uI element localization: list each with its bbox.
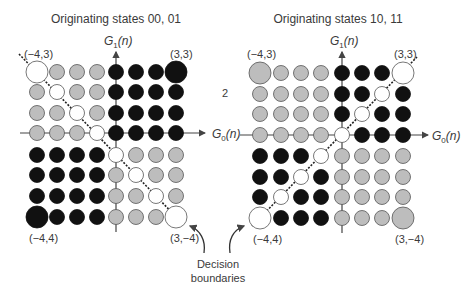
constellation-point-black [109, 65, 124, 80]
constellation-point-black [90, 210, 105, 225]
constellation-point-black [314, 190, 329, 205]
constellation-point-gray [355, 190, 370, 205]
constellation-point-black [396, 107, 411, 122]
constellation-point-black [70, 148, 85, 163]
constellation-point-gray [375, 170, 390, 185]
constellation-point-gray [149, 168, 164, 183]
constellation-point-black [355, 66, 370, 81]
constellation-point-black [129, 65, 144, 80]
constellation-point-gray [70, 126, 85, 141]
constellation-point-gray [109, 168, 124, 183]
constellation-point-white [294, 170, 309, 185]
constellation-point-black [165, 61, 187, 83]
constellation-point-white [335, 128, 350, 143]
constellation-point-gray [70, 65, 85, 80]
constellation-point-white [274, 190, 289, 205]
constellation-point-gray [314, 107, 329, 122]
constellation-point-gray [30, 85, 45, 100]
annotation-line2: boundaries [191, 272, 246, 284]
constellation-point-gray [396, 149, 411, 164]
constellation-point-black [169, 106, 184, 121]
constellation-point-black [90, 148, 105, 163]
constellation-point-gray [169, 148, 184, 163]
constellation-point-gray [274, 107, 289, 122]
panel-left-x-axis-label: G0(n) [212, 127, 240, 143]
constellation-point-white [109, 148, 124, 163]
constellation-point-black [109, 106, 124, 121]
constellation-point-black [294, 190, 309, 205]
annotation-arrow-right [230, 226, 244, 253]
constellation-point-gray [314, 128, 329, 143]
constellation-point-gray [314, 66, 329, 81]
constellation-point-white [129, 168, 144, 183]
constellation-point-black [294, 211, 309, 226]
constellation-point-black [169, 85, 184, 100]
constellation-point-black [314, 211, 329, 226]
constellation-point-gray [335, 190, 350, 205]
constellation-point-black [26, 206, 48, 228]
panel-right-label-top-right: (3,3) [394, 48, 417, 60]
constellation-point-gray [253, 87, 268, 102]
constellation-point-black [253, 149, 268, 164]
constellation-point-black [30, 168, 45, 183]
constellation-point-black [274, 149, 289, 164]
constellation-point-gray [375, 149, 390, 164]
panel-left-label-top-left: (−4,3) [24, 48, 53, 60]
constellation-point-white [26, 61, 48, 83]
constellation-point-black [375, 107, 390, 122]
panel-right-title: Originating states 10, 11 [273, 12, 403, 26]
constellation-point-gray [149, 210, 164, 225]
constellation-point-gray [335, 211, 350, 226]
panel-left-label-top-right: (3,3) [170, 48, 193, 60]
constellation-point-white [375, 87, 390, 102]
constellation-point-black [253, 170, 268, 185]
constellation-point-gray [129, 210, 144, 225]
constellation-point-black [50, 148, 65, 163]
constellation-point-black [396, 128, 411, 143]
constellation-point-white [249, 207, 271, 229]
constellation-point-gray [355, 170, 370, 185]
constellation-point-white [314, 149, 329, 164]
constellation-point-gray [375, 190, 390, 205]
constellation-point-black [50, 210, 65, 225]
constellation-point-black [129, 106, 144, 121]
constellation-point-gray [294, 107, 309, 122]
constellation-point-black [274, 211, 289, 226]
panel-left-title: Originating states 00, 01 [51, 12, 181, 26]
constellation-point-black [169, 126, 184, 141]
constellation-point-black [294, 149, 309, 164]
constellation-point-white [70, 106, 85, 121]
constellation-point-gray [396, 170, 411, 185]
constellation-point-black [90, 189, 105, 204]
panel-right-label-top-left: (−4,3) [247, 48, 276, 60]
constellation-point-gray [314, 87, 329, 102]
panel-right: Originating states 10, 11 G1(n) G0(n) (−… [240, 12, 460, 245]
constellation-point-black [335, 87, 350, 102]
constellation-point-black [50, 168, 65, 183]
panel-right-label-bottom-left: (−4,4) [253, 233, 282, 245]
constellation-point-gray [30, 126, 45, 141]
constellation-point-white [355, 107, 370, 122]
constellation-point-gray [50, 106, 65, 121]
constellation-point-black [335, 66, 350, 81]
constellation-point-black [274, 170, 289, 185]
constellation-point-gray [129, 189, 144, 204]
constellation-point-black [253, 190, 268, 205]
constellation-point-gray [396, 190, 411, 205]
constellation-point-black [109, 85, 124, 100]
constellation-point-gray [109, 210, 124, 225]
constellation-point-black [396, 87, 411, 102]
constellation-point-gray [129, 148, 144, 163]
constellation-point-black [70, 210, 85, 225]
constellation-point-gray [169, 189, 184, 204]
constellation-point-gray [249, 62, 271, 84]
constellation-point-black [355, 128, 370, 143]
constellation-point-gray [355, 149, 370, 164]
constellation-point-gray [294, 66, 309, 81]
constellation-point-gray [274, 66, 289, 81]
constellation-point-black [30, 189, 45, 204]
constellation-point-gray [253, 107, 268, 122]
constellation-point-black [149, 126, 164, 141]
constellation-point-black [70, 189, 85, 204]
constellation-point-white [165, 206, 187, 228]
